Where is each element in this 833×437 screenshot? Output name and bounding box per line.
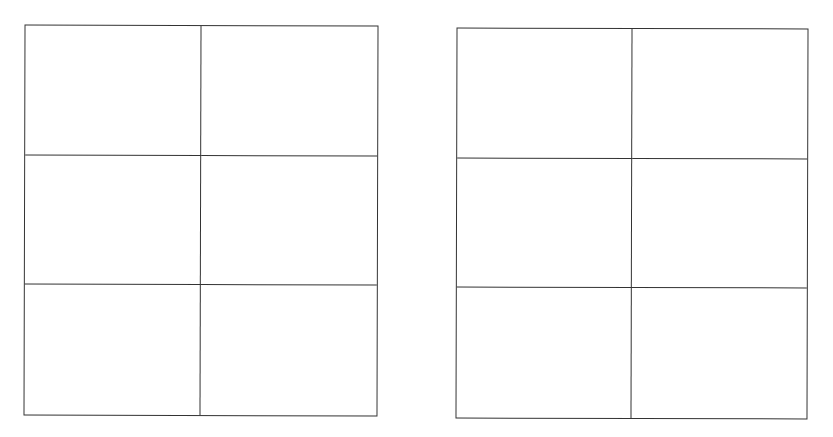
grid-cell <box>201 156 377 286</box>
grid-cell <box>631 288 806 418</box>
grid-cell <box>25 26 201 156</box>
grid-cell <box>632 29 807 159</box>
grid-cell <box>201 26 377 156</box>
grid-cell <box>632 159 807 289</box>
grid-cell <box>200 285 376 415</box>
grid-cell <box>24 285 200 415</box>
grid-cell <box>457 29 632 159</box>
grid-cell <box>456 288 631 418</box>
right-grid <box>455 28 808 420</box>
grid-cell <box>25 155 201 285</box>
left-grid <box>23 25 378 417</box>
grid-cell <box>457 158 632 288</box>
